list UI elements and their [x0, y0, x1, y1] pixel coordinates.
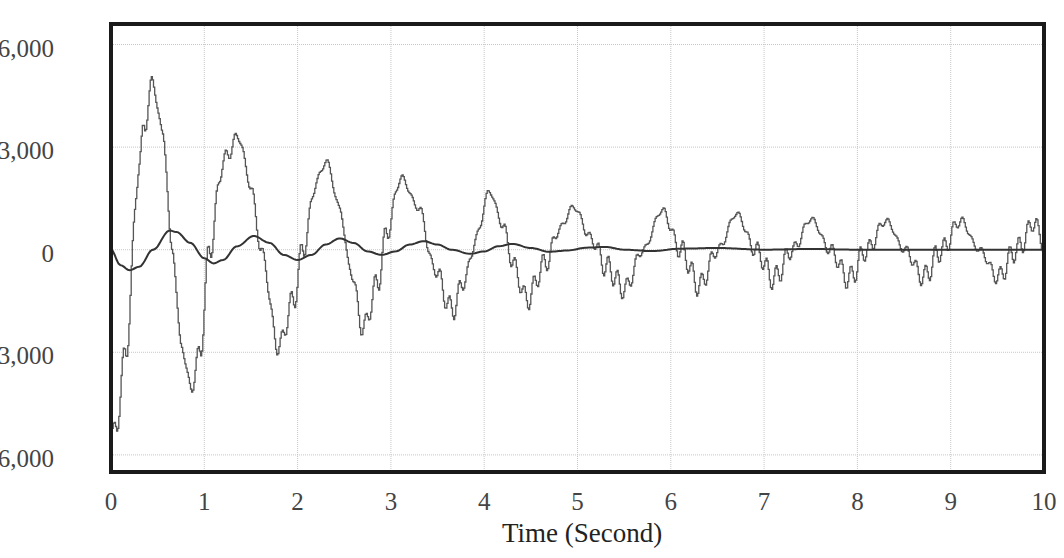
x-tick-label: 7	[758, 488, 771, 516]
y-tick-label: -3,000	[0, 342, 54, 370]
x-tick-label: 4	[478, 488, 491, 516]
x-tick-label: 6	[665, 488, 678, 516]
x-tick-label: 2	[291, 488, 304, 516]
x-tick-label: 3	[385, 488, 398, 516]
chart-svg	[0, 0, 1064, 558]
x-tick-label: 8	[851, 488, 864, 516]
y-tick-label: 6,000	[0, 35, 54, 63]
x-tick-label: 10	[1032, 488, 1057, 516]
x-axis-label: Time (Second)	[502, 518, 662, 549]
x-tick-label: 0	[105, 488, 118, 516]
y-tick-label: 0	[42, 240, 55, 268]
y-tick-label: -6,000	[0, 445, 54, 473]
x-tick-label: 1	[198, 488, 211, 516]
x-tick-label: 9	[944, 488, 957, 516]
y-tick-label: 3,000	[0, 137, 54, 165]
x-tick-label: 5	[571, 488, 584, 516]
